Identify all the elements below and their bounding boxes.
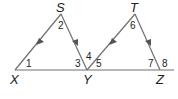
vertex-x-label: X: [9, 72, 20, 87]
triangle-diagram: S T X Y Z 1 2 3 4 5 6 7 8: [0, 0, 178, 99]
angle-3-label: 3: [75, 58, 81, 69]
arrow-mark-tz: [145, 39, 151, 46]
arrow-mark-ty: [109, 38, 117, 45]
angle-5-label: 5: [96, 58, 102, 69]
angle-7-label: 7: [148, 58, 154, 69]
angle-8-label: 8: [162, 58, 168, 69]
arrow-mark-sx: [36, 38, 44, 45]
angle-6-label: 6: [130, 20, 136, 31]
vertex-t-label: T: [130, 0, 139, 15]
vertex-s-label: S: [56, 0, 65, 15]
vertex-y-label: Y: [83, 72, 93, 87]
vertex-z-label: Z: [155, 72, 165, 87]
angle-1-label: 1: [26, 58, 32, 69]
angle-2-label: 2: [58, 20, 64, 31]
angle-4-label: 4: [86, 51, 92, 62]
